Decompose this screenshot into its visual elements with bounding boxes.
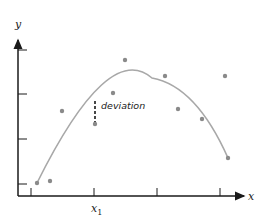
data-point [176, 107, 180, 111]
data-point [163, 74, 167, 78]
data-point [200, 117, 204, 121]
x-axis-label: x [248, 190, 255, 203]
data-point [60, 109, 64, 113]
data-point [35, 181, 39, 185]
data-point [223, 74, 227, 78]
data-point [123, 58, 127, 62]
x1-label: x1 [91, 202, 102, 217]
regression-figure: y x x1 deviation [0, 0, 266, 222]
x-ticks [31, 188, 220, 196]
data-point [226, 156, 230, 160]
y-axis-label: y [14, 18, 22, 31]
data-point [111, 91, 115, 95]
data-point [93, 122, 97, 126]
y-ticks [18, 50, 27, 184]
data-points [35, 58, 230, 185]
fitted-curve [37, 70, 228, 183]
data-point [48, 179, 52, 183]
chart-canvas: y x x1 deviation [0, 0, 266, 222]
deviation-label: deviation [101, 100, 145, 111]
